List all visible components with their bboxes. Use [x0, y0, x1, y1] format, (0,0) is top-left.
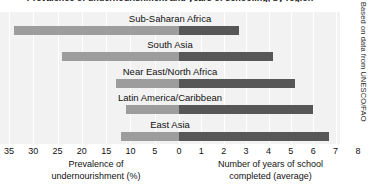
chart-row: Latin America/Caribbean	[0, 91, 340, 117]
plot-area: Sub-Saharan AfricaSouth AsiaNear East/No…	[0, 12, 340, 144]
left-axis-label: Prevalence ofundernourishment (%)	[51, 159, 140, 182]
source-credit-text: Based on data from UNESCO/FAO	[359, 2, 368, 122]
tick-right-4: 4	[266, 146, 271, 157]
tick-right-2: 2	[221, 146, 226, 157]
chart-row: South Asia	[0, 38, 340, 64]
tick-left-25: 25	[53, 146, 63, 157]
bar-undernourishment	[116, 79, 179, 88]
chart-title: Prevalence of undernourishment and years…	[0, 0, 340, 2]
tick-right-5: 5	[288, 146, 293, 157]
category-label: Sub-Saharan Africa	[0, 12, 340, 25]
bar-undernourishment	[62, 52, 179, 61]
right-axis-label: Number of years of schoolcompleted (aver…	[218, 159, 323, 182]
tick-right-7: 7	[333, 146, 338, 157]
chart-row: Near East/North Africa	[0, 65, 340, 91]
tick-left-35: 35	[4, 146, 14, 157]
tick-left-10: 10	[125, 146, 135, 157]
category-label: Latin America/Caribbean	[0, 91, 340, 104]
chart-container: Prevalence of undernourishment and years…	[0, 0, 370, 196]
bar-years-of-school	[179, 79, 295, 88]
tick-left-0: 0	[176, 146, 181, 157]
bar-years-of-school	[179, 105, 313, 114]
tick-left-20: 20	[77, 146, 87, 157]
bar-years-of-school	[179, 52, 273, 61]
chart-row: Sub-Saharan Africa	[0, 12, 340, 38]
bar-undernourishment	[126, 105, 179, 114]
category-label: Near East/North Africa	[0, 65, 340, 78]
axis-captions: Prevalence ofundernourishment (%) Number…	[0, 159, 370, 193]
category-label: East Asia	[0, 118, 340, 131]
tick-left-5: 5	[152, 146, 157, 157]
category-label: South Asia	[0, 38, 340, 51]
bar-years-of-school	[179, 132, 329, 141]
chart-row: East Asia	[0, 118, 340, 144]
tick-right-1: 1	[199, 146, 204, 157]
tick-right-6: 6	[311, 146, 316, 157]
source-credit: Based on data from UNESCO/FAO	[358, 0, 370, 150]
tick-right-3: 3	[244, 146, 249, 157]
bar-undernourishment	[121, 132, 179, 141]
axis-tick-labels: 3530252015105012345678	[0, 146, 370, 158]
tick-left-30: 30	[28, 146, 38, 157]
tick-left-15: 15	[101, 146, 111, 157]
bar-undernourishment	[14, 26, 179, 35]
bar-years-of-school	[179, 26, 239, 35]
